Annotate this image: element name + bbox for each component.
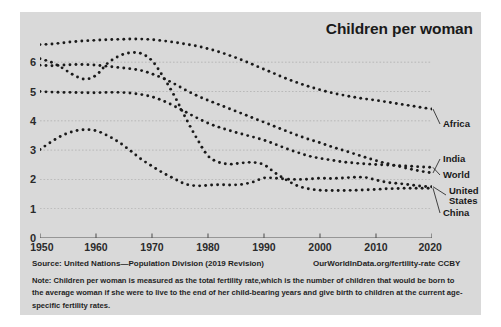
chart-canvas bbox=[40, 28, 432, 238]
source-row: Source: United Nations—Population Divisi… bbox=[32, 259, 472, 272]
series-world bbox=[40, 90, 431, 169]
source-text: Source: United Nations—Population Divisi… bbox=[32, 259, 264, 268]
series-label-africa: Africa bbox=[443, 119, 470, 129]
series-china bbox=[40, 51, 430, 192]
note-text: Note: Children per woman is measured as … bbox=[32, 275, 464, 312]
plot-area bbox=[40, 28, 432, 238]
x-axis-labels: 19501960197019801990200020102020 bbox=[40, 241, 432, 257]
owid-credit: OurWorldInData.org/fertility-rate CCBY bbox=[313, 259, 460, 268]
chart-footer: Source: United Nations—Population Divisi… bbox=[32, 259, 472, 312]
x-tick-label-2000: 2000 bbox=[308, 241, 331, 253]
series-label-world: World bbox=[443, 170, 470, 180]
series-india bbox=[40, 63, 431, 174]
series-label-line: China bbox=[443, 208, 469, 218]
series-label-line: Africa bbox=[443, 119, 470, 129]
x-tick-label-1970: 1970 bbox=[140, 241, 163, 253]
series-label-line: World bbox=[443, 170, 470, 180]
y-tick-label-3: 3 bbox=[30, 144, 36, 156]
series-label-india: India bbox=[443, 154, 465, 164]
x-tick-label-2020: 2020 bbox=[418, 241, 441, 253]
series-label-united-states: UnitedStates bbox=[449, 186, 479, 206]
series-label-line: States bbox=[449, 196, 479, 206]
chart-screenshot: Children per woman 0123456 1950196019701… bbox=[0, 0, 501, 327]
y-tick-label-4: 4 bbox=[30, 115, 36, 127]
series-label-china: China bbox=[443, 208, 469, 218]
series-africa bbox=[40, 38, 432, 111]
x-tick-label-1960: 1960 bbox=[84, 241, 107, 253]
x-tick-label-1980: 1980 bbox=[196, 241, 219, 253]
y-tick-label-2: 2 bbox=[30, 173, 36, 185]
x-tick-label-2010: 2010 bbox=[364, 241, 387, 253]
y-tick-label-5: 5 bbox=[30, 86, 36, 98]
x-tick-label-1990: 1990 bbox=[252, 241, 275, 253]
y-axis-labels: 0123456 bbox=[20, 28, 36, 238]
x-tick-label-1950: 1950 bbox=[30, 241, 53, 253]
y-tick-label-1: 1 bbox=[30, 203, 36, 215]
series-label-line: India bbox=[443, 154, 465, 164]
y-tick-label-6: 6 bbox=[30, 56, 36, 68]
